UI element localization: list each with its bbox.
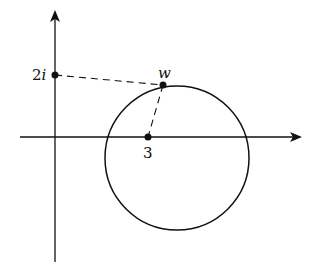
- label-3: 3: [143, 144, 153, 162]
- diagram-canvas: 2i w 3: [0, 0, 313, 274]
- dashed-segment-2i-to-w: [55, 75, 163, 85]
- circle: [105, 86, 249, 230]
- label-2i: 2i: [32, 66, 47, 84]
- complex-plane-diagram: 2i w 3: [0, 0, 313, 274]
- point-2i: [52, 72, 59, 79]
- point-w: [160, 82, 167, 89]
- label-w: w: [158, 64, 171, 82]
- dashed-segment-w-to-3: [148, 85, 163, 137]
- point-3: [145, 134, 152, 141]
